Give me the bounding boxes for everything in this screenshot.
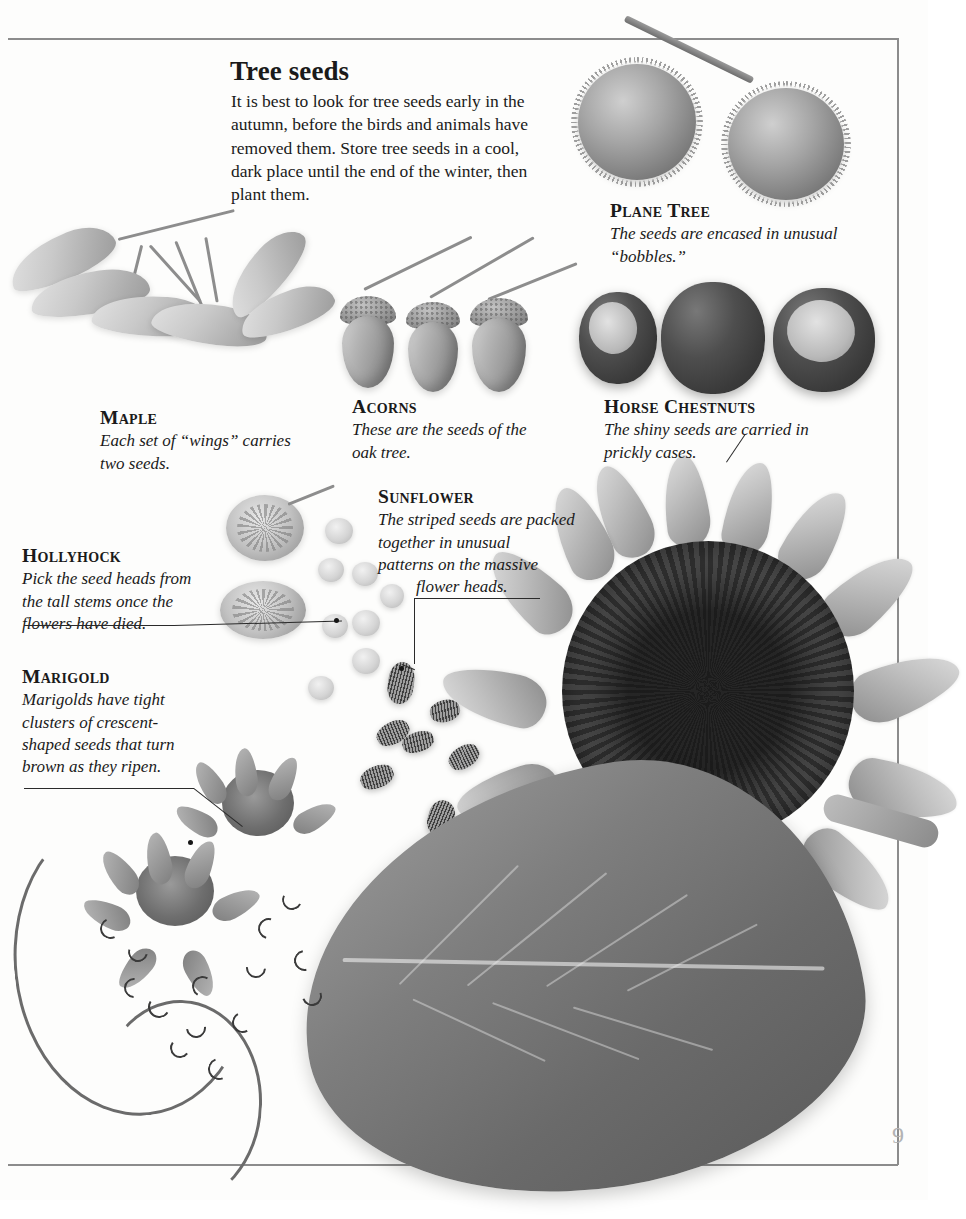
caption-text-sunflower: The striped seeds are packed together in…: [378, 509, 596, 597]
leader-line-marigold: [24, 788, 194, 789]
caption-title-marigold: Marigold: [22, 666, 194, 688]
specimen-maple-keys: [0, 200, 340, 390]
caption-horse-chestnuts: Horse Chestnuts The shiny seeds are carr…: [604, 396, 854, 464]
caption-sunflower: Sunflower The striped seeds are packed t…: [378, 486, 596, 598]
sunflower-seed-pale: [318, 558, 344, 582]
marigold-crescent-seed: [254, 914, 283, 943]
leader-line-sunflower: [414, 598, 415, 664]
marigold-petal: [289, 796, 340, 839]
specimen-marigold: [0, 790, 360, 1180]
sunflower-seed-pale: [325, 518, 353, 544]
caption-title-acorns: Acorns: [352, 396, 532, 418]
caption-text-maple: Each set of “wings” carries two seeds.: [100, 430, 300, 474]
plane-tree-bobble-right: [728, 88, 844, 200]
sunflower-seed-pale: [352, 562, 378, 586]
leader-line-sunflower: [414, 598, 540, 599]
caption-text-acorns: These are the seeds of the oak tree.: [352, 419, 532, 463]
caption-title-sunflower: Sunflower: [378, 486, 596, 508]
marigold-petal: [265, 753, 303, 804]
sunflower-seed-pale: [352, 610, 380, 636]
maple-twig: [118, 209, 235, 241]
page-intro: It is best to look for tree seeds early …: [231, 90, 542, 206]
specimen-horse-chestnuts: [575, 278, 895, 400]
leader-endpoint-marigold: [188, 840, 193, 845]
caption-sunflower-line-1: The striped seeds are packed: [378, 510, 575, 529]
horse-chestnut: [661, 282, 765, 394]
sunflower-seed-pale: [308, 676, 334, 700]
sunflower-seed-striped: [357, 760, 397, 793]
sunflower-seed-pale: [352, 648, 380, 674]
marigold-crescent-seed: [299, 983, 326, 1010]
hollyhock-pod: [226, 495, 304, 561]
acorn-body: [472, 318, 526, 392]
caption-plane-tree: Plane Tree The seeds are encased in unus…: [610, 200, 850, 268]
caption-sunflower-line-4: flower heads.: [378, 576, 596, 598]
caption-text-marigold: Marigolds have tight clusters of crescen…: [22, 689, 194, 777]
maple-twig: [175, 241, 204, 307]
acorn-stalk: [487, 262, 577, 301]
marigold-crescent-seed: [290, 946, 319, 975]
leaf-vein: [412, 998, 545, 1061]
maple-twig: [149, 244, 202, 302]
caption-maple: Maple Each set of “wings” carries two se…: [100, 407, 300, 475]
page-title: Tree seeds: [230, 56, 349, 87]
caption-text-plane-tree: The seeds are encased in unusual “bobble…: [610, 223, 850, 267]
maple-twig: [205, 237, 219, 302]
caption-title-maple: Maple: [100, 407, 300, 429]
leaf-vein: [573, 1007, 713, 1051]
leader-line-hollyhock: [24, 625, 174, 626]
page-number: 9: [892, 1122, 904, 1149]
caption-sunflower-line-3: patterns on the massive: [378, 555, 538, 574]
leaf-vein: [546, 894, 688, 987]
plane-tree-bobble-left: [578, 64, 696, 180]
specimen-plane-tree: [560, 40, 900, 210]
leader-endpoint-sunflower: [399, 666, 404, 671]
caption-title-plane-tree: Plane Tree: [610, 200, 850, 222]
caption-hollyhock: Hollyhock Pick the seed heads from the t…: [22, 545, 214, 635]
caption-sunflower-line-2: together in unusual: [378, 533, 510, 552]
caption-marigold: Marigold Marigolds have tight clusters o…: [22, 666, 194, 778]
leader-endpoint-hollyhock: [334, 618, 339, 623]
leaf-vein: [493, 1002, 640, 1060]
leaf-vein: [467, 873, 608, 987]
hollyhock-pod: [220, 581, 306, 639]
acorn-stalk: [429, 236, 534, 299]
sunflower-bract: [843, 640, 966, 732]
caption-acorns: Acorns These are the seeds of the oak tr…: [352, 396, 532, 464]
leaf-vein: [399, 865, 519, 985]
specimen-acorns: [330, 248, 580, 398]
acorn-body: [342, 316, 394, 388]
acorn-body: [408, 322, 458, 392]
marigold-crescent-seed: [279, 887, 304, 912]
sunflower-bract: [657, 453, 713, 550]
leaf-vein: [627, 924, 758, 992]
caption-title-hollyhock: Hollyhock: [22, 545, 214, 567]
caption-title-horse-chestnuts: Horse Chestnuts: [604, 396, 854, 418]
